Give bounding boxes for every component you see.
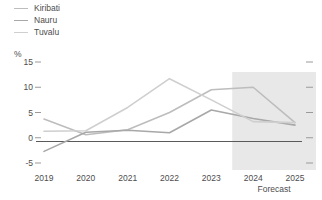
chart-container: Kiribati Nauru Tuvalu % 151050-5 2019202… [0,0,322,200]
y-tick-label: 5 [28,108,33,118]
x-tick-label: 2019 [35,173,54,183]
y-tick-label: -5 [25,158,33,168]
forecast-band-rect [232,72,316,170]
x-tick-label: 2021 [118,173,137,183]
x-tick-label: 2024 [244,173,263,183]
x-tick-label: 2022 [160,173,179,183]
forecast-shading [232,72,316,170]
forecast-annotation-label: Forecast [258,184,292,194]
y-tick-label: 0 [28,133,33,143]
y-axis-ticks: 151050-5 [24,57,41,168]
x-axis-tick-labels: 2019202020212022202320242025 [35,173,305,183]
y-tick-label: 10 [24,82,34,92]
chart-plot: 151050-5 2019202020212022202320242025 Fo… [0,0,322,200]
x-tick-label: 2020 [76,173,95,183]
y-tick-label: 15 [24,57,34,67]
x-tick-label: 2023 [202,173,221,183]
x-tick-label: 2025 [286,173,305,183]
